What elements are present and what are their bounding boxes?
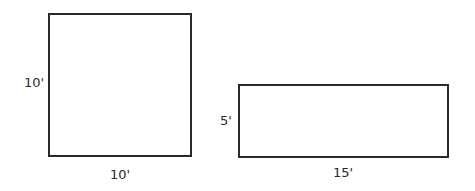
- square-shape: [48, 13, 192, 157]
- rectangle-shape: [238, 84, 449, 158]
- rectangle-width-label: 15': [333, 166, 353, 180]
- square-width-label: 10': [110, 168, 130, 182]
- rectangle-height-label: 5': [220, 114, 232, 128]
- square-height-label: 10': [24, 76, 44, 90]
